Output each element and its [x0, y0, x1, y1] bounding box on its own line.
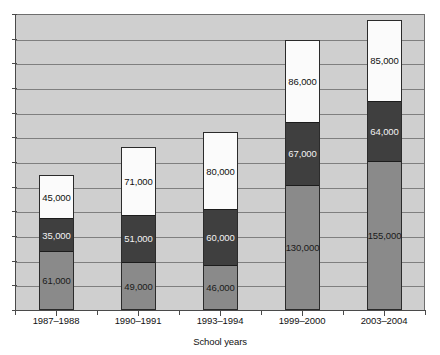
bar-segment-value-label: 45,000 [42, 192, 70, 203]
bar-segment-top[interactable]: 45,000 [40, 175, 73, 218]
x-axis-tick-label: 1993–1994 [197, 315, 244, 326]
y-axis-tick [12, 261, 17, 262]
x-axis [15, 310, 426, 311]
gridline [16, 89, 424, 90]
y-axis-tick [12, 39, 17, 40]
x-axis-minor-tick [261, 311, 262, 315]
bar-segment-value-label: 51,000 [124, 233, 152, 244]
y-axis-tick [12, 113, 17, 114]
bar-segment-value-label: 61,000 [42, 275, 70, 286]
bar-segment-value-label: 67,000 [288, 148, 316, 159]
stacked-bar-chart: 45,00035,00061,00071,00051,00049,00080,0… [0, 0, 440, 355]
y-axis-tick [12, 137, 17, 138]
bar[interactable]: 85,00064,000155,000 [367, 20, 402, 310]
y-axis-tick [12, 236, 17, 237]
x-axis-minor-tick [425, 311, 426, 315]
y-axis-tick [12, 14, 17, 15]
y-axis-tick [12, 63, 17, 64]
bar-segment-value-label: 80,000 [206, 166, 234, 177]
gridline [16, 64, 424, 65]
bar-segment-value-label: 60,000 [206, 232, 234, 243]
bar-segment-top[interactable]: 85,000 [368, 20, 401, 101]
x-axis-tick-label: 1990–1991 [115, 315, 162, 326]
gridline [16, 40, 424, 41]
y-axis [15, 14, 16, 311]
bar-segment-bottom[interactable]: 49,000 [122, 263, 155, 310]
bar-segment-top[interactable]: 71,000 [122, 147, 155, 215]
bar-segment-value-label: 49,000 [124, 281, 152, 292]
bar-segment-top[interactable]: 80,000 [204, 132, 237, 208]
y-axis-tick [12, 187, 17, 188]
bar-segment-middle[interactable]: 64,000 [368, 101, 401, 162]
bar[interactable]: 45,00035,00061,000 [39, 175, 74, 310]
y-axis-tick [12, 285, 17, 286]
bar-segment-value-label: 46,000 [206, 282, 234, 293]
bar-segment-top[interactable]: 86,000 [286, 40, 319, 122]
clipped-chart-title [0, 0, 440, 9]
bar-segment-bottom[interactable]: 61,000 [40, 252, 73, 310]
bar-segment-value-label: 71,000 [124, 176, 152, 187]
bar-segment-bottom[interactable]: 46,000 [204, 266, 237, 310]
bar-segment-value-label: 85,000 [370, 55, 398, 66]
bar-segment-bottom[interactable]: 130,000 [286, 186, 319, 310]
bar-segment-value-label: 35,000 [42, 230, 70, 241]
bar-segment-middle[interactable]: 35,000 [40, 218, 73, 251]
y-axis-tick [12, 88, 17, 89]
bar-segment-middle[interactable]: 67,000 [286, 122, 319, 186]
x-axis-minor-tick [15, 311, 16, 315]
bar[interactable]: 80,00060,00046,000 [203, 132, 238, 310]
y-axis-tick [12, 162, 17, 163]
bar-segment-bottom[interactable]: 155,000 [368, 162, 401, 310]
y-axis-tick [12, 211, 17, 212]
bar-segment-value-label: 64,000 [370, 126, 398, 137]
x-axis-minor-tick [179, 311, 180, 315]
bar-segment-middle[interactable]: 51,000 [122, 215, 155, 264]
x-axis-tick-label: 1999–2000 [279, 315, 326, 326]
bar-segment-value-label: 130,000 [286, 242, 320, 253]
gridline [16, 114, 424, 115]
x-axis-minor-tick [97, 311, 98, 315]
x-axis-tick-label: 1987–1988 [33, 315, 80, 326]
x-axis-title: School years [0, 336, 440, 347]
bar[interactable]: 71,00051,00049,000 [121, 147, 156, 310]
bar-segment-middle[interactable]: 60,000 [204, 209, 237, 266]
x-axis-tick-label: 2003–2004 [361, 315, 408, 326]
bar-segment-value-label: 155,000 [368, 230, 402, 241]
bar[interactable]: 86,00067,000130,000 [285, 40, 320, 310]
bar-segment-value-label: 86,000 [288, 76, 316, 87]
x-axis-minor-tick [343, 311, 344, 315]
